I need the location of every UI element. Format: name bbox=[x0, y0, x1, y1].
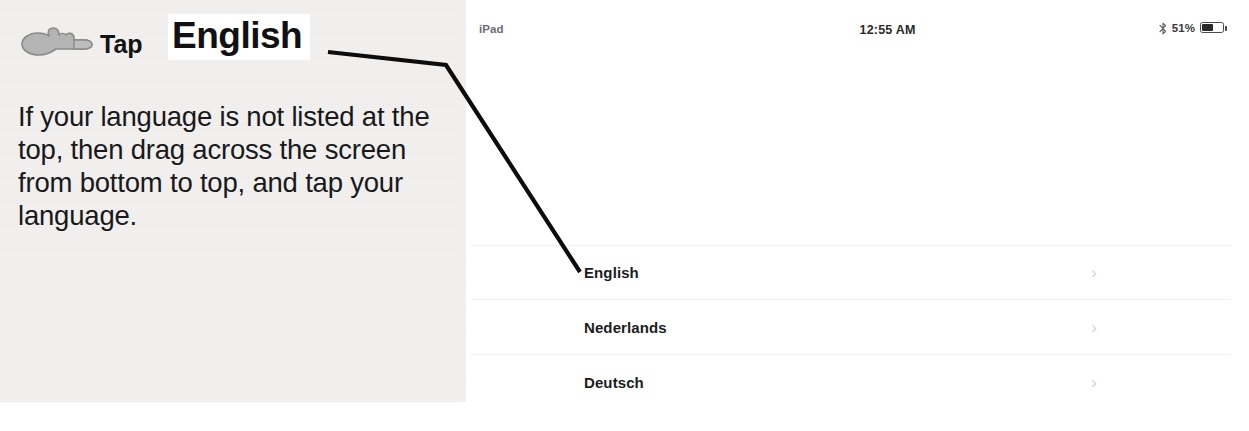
chevron-right-icon: › bbox=[1091, 319, 1097, 336]
bluetooth-icon bbox=[1159, 21, 1167, 34]
language-row-english[interactable]: English › bbox=[466, 245, 1249, 300]
battery-fill bbox=[1202, 24, 1213, 31]
target-word-highlight: English bbox=[168, 14, 310, 60]
battery-icon bbox=[1200, 22, 1224, 33]
status-clock: 12:55 AM bbox=[526, 23, 1249, 37]
instruction-paragraph: If your language is not listed at the to… bbox=[18, 100, 448, 232]
battery-cap bbox=[1225, 26, 1227, 31]
language-row-deutsch[interactable]: Deutsch › bbox=[466, 355, 1249, 410]
chevron-right-icon: › bbox=[1091, 374, 1097, 391]
instruction-panel: Tap English If your language is not list… bbox=[0, 0, 466, 402]
status-indicators: 51% bbox=[1159, 21, 1224, 34]
status-bar: iPad 12:55 AM 51% bbox=[466, 0, 1249, 46]
tap-label: Tap bbox=[100, 30, 143, 59]
status-device-label: iPad bbox=[479, 23, 504, 35]
chevron-right-icon: › bbox=[1091, 264, 1097, 281]
language-label: Deutsch bbox=[584, 374, 644, 391]
language-list: English › Nederlands › Deutsch › bbox=[466, 245, 1249, 410]
pointing-hand-icon bbox=[16, 20, 94, 66]
screenshot-page: Tap English If your language is not list… bbox=[0, 0, 1249, 431]
language-row-nederlands[interactable]: Nederlands › bbox=[466, 300, 1249, 355]
language-label: English bbox=[584, 264, 639, 281]
ipad-screenshot: iPad 12:55 AM 51% English › bbox=[466, 0, 1249, 431]
battery-percent-label: 51% bbox=[1172, 22, 1195, 34]
language-label: Nederlands bbox=[584, 319, 667, 336]
